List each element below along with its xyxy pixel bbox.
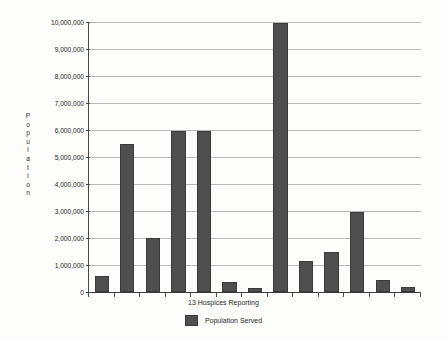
bar	[120, 144, 134, 292]
x-axis-tick-mark	[343, 292, 344, 297]
y-axis-tick-label: 7,000,000	[55, 100, 84, 107]
bar	[146, 238, 160, 292]
bar	[299, 261, 313, 292]
bar	[350, 212, 364, 292]
y-axis-title-letter: n	[22, 189, 34, 198]
x-axis-title: 13 Hospices Reporting	[0, 299, 447, 306]
plot-area	[88, 22, 420, 292]
bar-chart: Population 01,000,0002,000,0003,000,0004…	[0, 0, 447, 341]
y-axis-title-letter: P	[22, 112, 34, 121]
y-axis-tick-label: 9,000,000	[55, 46, 84, 53]
y-axis-tick-label: 10,000,000	[51, 19, 84, 26]
y-axis-title-letter: a	[22, 155, 34, 164]
x-axis-tick-mark	[190, 292, 191, 297]
y-axis-tick-label: 8,000,000	[55, 73, 84, 80]
y-axis-tick-labels: 01,000,0002,000,0003,000,0004,000,0005,0…	[36, 0, 88, 341]
bar	[324, 252, 338, 292]
y-axis-title-letter: o	[22, 181, 34, 190]
bar	[376, 280, 390, 292]
bar	[273, 23, 287, 292]
bar	[222, 282, 236, 292]
y-axis-tick-label: 4,000,000	[55, 181, 84, 188]
x-axis-tick-mark	[241, 292, 242, 297]
x-axis-tick-mark	[88, 292, 89, 297]
y-axis-title-letter: i	[22, 172, 34, 181]
x-axis-tick-mark	[369, 292, 370, 297]
x-axis-tick-mark	[292, 292, 293, 297]
y-axis-tick-label: 2,000,000	[55, 235, 84, 242]
x-axis-tick-mark	[318, 292, 319, 297]
bar	[171, 131, 185, 292]
chart-legend: Population Served	[0, 315, 447, 326]
y-axis-title-letter: p	[22, 129, 34, 138]
y-axis-title-letter: l	[22, 146, 34, 155]
y-axis-tick-label: 1,000,000	[55, 262, 84, 269]
x-axis-tick-mark	[165, 292, 166, 297]
x-axis-tick-mark	[394, 292, 395, 297]
legend-swatch-icon	[185, 315, 198, 326]
y-axis-tick-label: 5,000,000	[55, 154, 84, 161]
x-axis-tick-mark	[216, 292, 217, 297]
bar	[197, 131, 211, 292]
x-axis-tick-mark	[139, 292, 140, 297]
y-axis-title-letter: u	[22, 138, 34, 147]
x-axis-tick-mark	[267, 292, 268, 297]
y-axis-tick-label: 0	[80, 289, 84, 296]
y-axis-title-letter: o	[22, 121, 34, 130]
legend-label: Population Served	[205, 317, 262, 324]
x-axis-tick-marks	[88, 292, 420, 298]
y-axis-tick-label: 6,000,000	[55, 127, 84, 134]
y-axis-title-letter: t	[22, 164, 34, 173]
y-axis-tick-label: 3,000,000	[55, 208, 84, 215]
x-axis-tick-mark	[114, 292, 115, 297]
x-axis-tick-mark	[420, 292, 421, 297]
bar	[95, 276, 109, 292]
bars-layer	[89, 22, 421, 292]
y-axis-title: Population	[22, 112, 34, 198]
